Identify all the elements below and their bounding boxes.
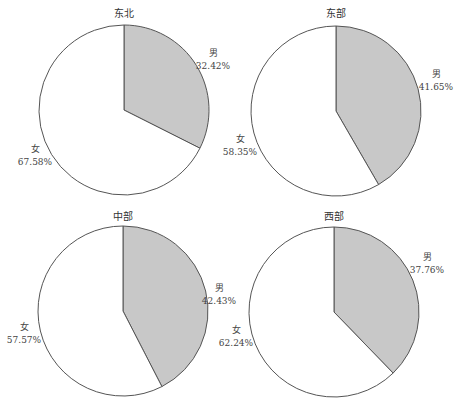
slice-percent-female: 67.58% (18, 157, 53, 167)
pie-chart-east: 东部 男 41.65% 女 58.35% (223, 7, 454, 196)
slice-label-male: 男 (215, 283, 224, 293)
pie-title: 中部 (113, 210, 133, 222)
pie-title: 东北 (114, 7, 134, 19)
slice-percent-male: 41.65% (419, 82, 454, 92)
slice-label-male: 男 (209, 48, 218, 58)
pie-chart-northeast: 东北 男 32.42% 女 67.58% (18, 7, 231, 195)
slice-percent-male: 42.43% (202, 296, 237, 306)
slice-label-male: 男 (423, 252, 432, 262)
slice-percent-male: 37.76% (410, 265, 445, 275)
slice-label-female: 女 (236, 133, 245, 144)
slice-percent-male: 32.42% (196, 61, 231, 71)
slice-percent-female: 57.57% (7, 335, 42, 345)
pie-charts-figure: 东北 男 32.42% 女 67.58% 东部 男 41.65% 女 58.35… (0, 0, 455, 412)
slice-percent-female: 62.24% (219, 338, 254, 348)
pie-chart-west: 西部 男 37.76% 女 62.24% (219, 210, 445, 397)
pie-title: 东部 (326, 7, 346, 19)
slice-percent-female: 58.35% (223, 147, 258, 157)
slice-label-male: 男 (432, 69, 441, 79)
slice-label-female: 女 (232, 324, 241, 335)
slice-label-female: 女 (31, 143, 40, 154)
pie-title: 西部 (324, 210, 344, 222)
pie-chart-central: 中部 男 42.43% 女 57.57% (7, 210, 237, 396)
slice-label-female: 女 (20, 321, 29, 332)
